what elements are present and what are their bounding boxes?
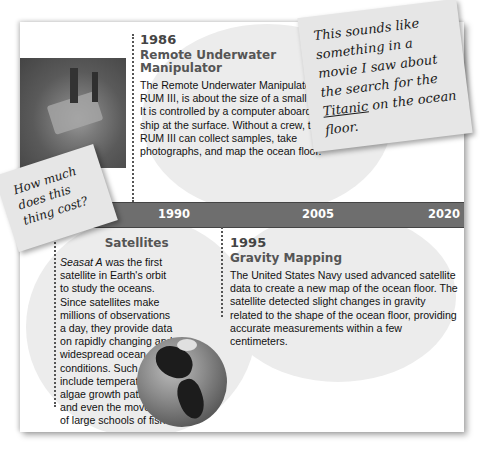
entry-title: Gravity Mapping bbox=[230, 252, 458, 265]
entry-year: 1978 bbox=[60, 235, 96, 250]
note-text: How much does this thing cost? bbox=[12, 164, 90, 228]
entry-year: 1995 bbox=[230, 235, 458, 250]
axis-label: 2005 bbox=[302, 207, 334, 221]
timeline-connector bbox=[54, 227, 56, 407]
entry-body-lead: Seasat A bbox=[60, 256, 103, 268]
entry-1995: 1995 Gravity Mapping The United States N… bbox=[230, 235, 458, 348]
entry-title: Satellites bbox=[105, 236, 169, 250]
timeline-connector bbox=[221, 227, 223, 317]
entry-body: The United States Navy used advanced sat… bbox=[230, 269, 458, 348]
axis-label: 1990 bbox=[158, 207, 190, 221]
sticky-note-titanic: This sounds like something in a movie I … bbox=[297, 0, 472, 152]
timeline-connector bbox=[132, 34, 134, 202]
earth-globe-image bbox=[137, 337, 227, 427]
note-text: This sounds like something in a movie I … bbox=[313, 16, 439, 100]
note-underlined-text: Titanic bbox=[322, 98, 369, 118]
axis-label: 2020 bbox=[428, 207, 460, 221]
